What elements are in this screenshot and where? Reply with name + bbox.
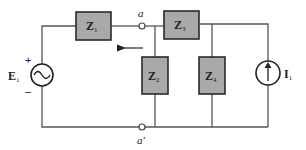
wire-top-right <box>199 24 268 61</box>
label-z4-sub: 4 <box>213 76 217 84</box>
label-e1-sub: 1 <box>16 76 20 84</box>
label-node-a: a <box>138 8 144 19</box>
label-z3-main: Z <box>174 18 182 32</box>
wire-left-top <box>42 26 76 64</box>
label-e1-main: E <box>8 69 16 83</box>
wire-bottom-left <box>42 86 139 127</box>
label-z1-sub: 1 <box>94 26 98 34</box>
label-e1: E1 <box>8 70 20 84</box>
label-z2-sub: 2 <box>156 76 160 84</box>
label-z3: Z3 <box>174 19 186 33</box>
circuit-diagram: Z1 Z3 Z2 Z4 E1 I1 + – a a′ <box>0 0 306 150</box>
label-z3-sub: 3 <box>182 25 186 33</box>
label-z4-main: Z <box>205 69 213 83</box>
label-z2: Z2 <box>148 70 160 84</box>
label-node-a-prime: a′ <box>137 135 145 146</box>
node-a-terminal <box>139 23 145 29</box>
label-z4: Z4 <box>205 70 217 84</box>
label-z2-main: Z <box>148 69 156 83</box>
label-z1-main: Z <box>86 19 94 33</box>
polarity-plus: + <box>25 55 31 66</box>
label-i1-sub: 1 <box>289 74 293 82</box>
label-z1: Z1 <box>86 20 98 34</box>
polarity-minus: – <box>25 86 31 97</box>
node-a-prime-terminal <box>139 124 145 130</box>
label-i1: I1 <box>284 68 292 82</box>
